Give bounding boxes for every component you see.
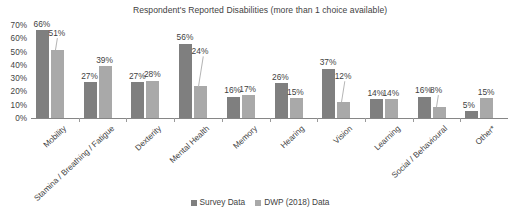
- category-label-text: Stamina / Breathing / Fatigue: [32, 124, 116, 203]
- x-axis-tick: [317, 118, 318, 122]
- x-axis-tick: [270, 118, 271, 122]
- x-axis-category-label: Stamina / Breathing / Fatigue: [110, 52, 194, 131]
- x-axis-category-label: Hearing: [300, 104, 327, 130]
- x-axis-category-label: Dexterity: [157, 102, 187, 131]
- x-axis-category-label: Mobility: [62, 105, 88, 131]
- category-label-text: Memory: [231, 124, 259, 151]
- legend-label: Survey Data: [200, 197, 246, 207]
- category-label-text: Other*: [474, 124, 497, 147]
- category-label-text: Dexterity: [134, 124, 164, 153]
- legend-item[interactable]: DWP (2018) Data: [255, 197, 329, 207]
- category-label-text: Learning: [372, 124, 401, 152]
- x-axis-category-label: Mental Health: [205, 90, 248, 131]
- legend-item[interactable]: Survey Data: [191, 197, 246, 207]
- x-axis-category-labels: MobilityStamina / Breathing / FatigueDex…: [0, 0, 520, 222]
- x-axis-tick: [460, 118, 461, 122]
- x-axis-tick: [126, 118, 127, 122]
- x-axis-tick: [365, 118, 366, 122]
- category-label-text: Vision: [332, 124, 354, 146]
- x-axis-tick: [79, 118, 80, 122]
- category-label-text: Mobility: [42, 124, 68, 150]
- legend-color-swatch: [191, 200, 197, 206]
- legend-color-swatch: [255, 200, 261, 206]
- x-axis-category-label: Memory: [253, 104, 281, 131]
- x-axis-tick: [413, 118, 414, 122]
- category-label-text: Mental Health: [168, 124, 211, 165]
- x-axis-category-label: Other*: [491, 108, 514, 131]
- x-axis-tick: [174, 118, 175, 122]
- bar-chart: Respondent's Reported Disabilities (more…: [0, 0, 520, 222]
- legend-label: DWP (2018) Data: [264, 197, 329, 207]
- x-axis-tick: [222, 118, 223, 122]
- category-label-text: Hearing: [279, 124, 306, 150]
- chart-legend: Survey DataDWP (2018) Data: [0, 196, 520, 207]
- x-axis-category-label: Vision: [348, 109, 370, 131]
- x-axis-category-label: Learning: [396, 102, 425, 130]
